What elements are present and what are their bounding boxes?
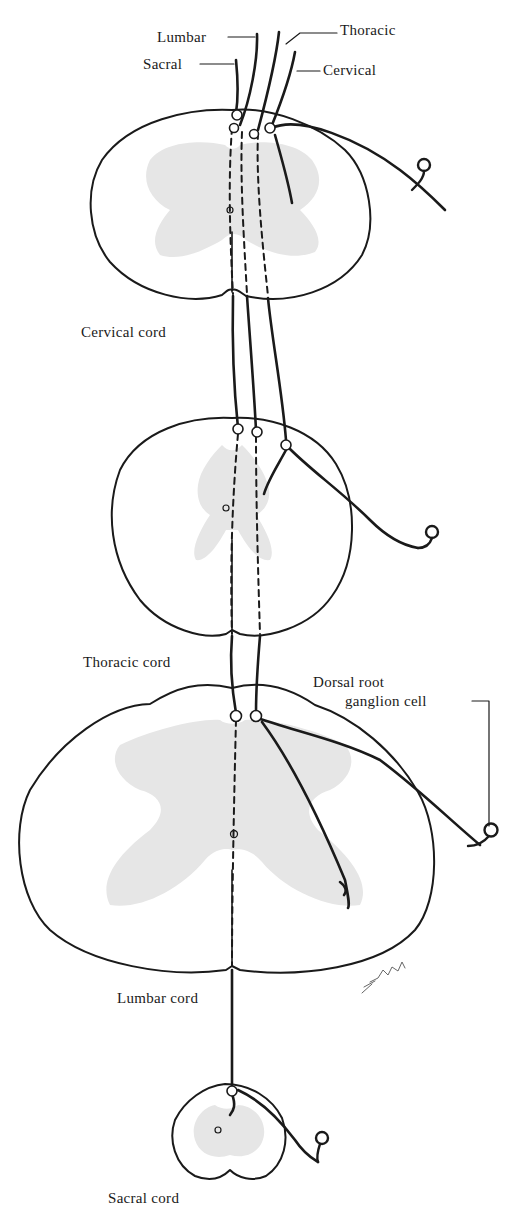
lumbar-fiber xyxy=(240,34,257,125)
lumbar-cord-section xyxy=(19,685,434,973)
cervical-cord-label: Cervical cord xyxy=(81,324,166,341)
thoracic-cord-label: Thoracic cord xyxy=(83,654,171,671)
thoracic-entry-2 xyxy=(252,427,262,437)
sacral-cord-section xyxy=(172,1084,285,1179)
ganglion-cells xyxy=(316,159,498,1162)
lumbar-entry-1 xyxy=(231,711,242,722)
thoracic-fiber-mid xyxy=(247,296,256,430)
ganglion-label-line1: Dorsal root xyxy=(313,674,384,691)
lumbar-ganglion-cell-icon xyxy=(485,824,498,837)
lumbar-fiber-low xyxy=(231,636,236,713)
cervical-fiber xyxy=(272,52,295,125)
lumbar-fiber-mid xyxy=(233,296,238,428)
lumbar-entry-2 xyxy=(251,711,262,722)
lumbar-cord-label: Lumbar cord xyxy=(117,990,198,1007)
cervical-entry-cervical xyxy=(265,123,275,133)
thoracic-leader xyxy=(286,33,337,44)
artist-signature xyxy=(362,962,405,993)
thoracic-fiber-label: Thoracic xyxy=(340,22,396,39)
cervical-entry-thoracic xyxy=(250,130,259,139)
thoracic-ganglion-collateral xyxy=(264,450,286,494)
ganglion-leader xyxy=(472,701,489,826)
sacral-fiber-label: Sacral xyxy=(143,56,182,73)
cervical-fiber-label: Cervical xyxy=(323,62,376,79)
ganglion-label-line2: ganglion cell xyxy=(345,693,427,710)
thoracic-entry-1 xyxy=(233,424,243,434)
sacral-ganglion-cell-icon xyxy=(316,1132,328,1144)
thoracic-ganglion-cell-icon xyxy=(426,526,438,538)
cervical-fiber-mid xyxy=(268,298,286,440)
sacral-cord-label: Sacral cord xyxy=(108,1190,179,1207)
cervical-entry-lumbar xyxy=(230,124,239,133)
cervical-ganglion-cell-icon xyxy=(418,159,430,171)
thoracic-entry-3 xyxy=(281,440,291,450)
sacral-gray-matter xyxy=(194,1105,264,1157)
cervical-entry-sacral xyxy=(232,110,242,120)
sacral-entry xyxy=(227,1086,237,1096)
spinal-cord-diagram xyxy=(0,0,514,1219)
sacral-fiber xyxy=(236,60,238,113)
lumbar-fiber-label: Lumbar xyxy=(157,29,206,46)
thoracic-fiber-low xyxy=(256,636,260,713)
